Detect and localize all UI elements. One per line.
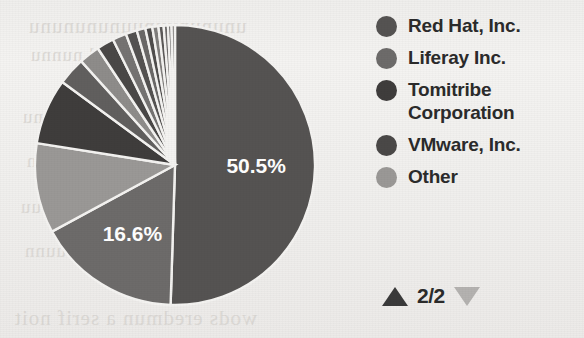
triangle-up-icon[interactable] bbox=[382, 287, 408, 306]
pie-slice-label: 50.5% bbox=[226, 154, 286, 177]
legend-item-tomitribe[interactable]: Tomitribe Corporation bbox=[376, 78, 582, 124]
legend-swatch-icon bbox=[376, 167, 397, 188]
legend-pager: 2/2 bbox=[382, 284, 480, 308]
pie-slice-label: 16.6% bbox=[103, 222, 163, 245]
legend-item-label: Other bbox=[408, 165, 458, 188]
legend-item-vmware[interactable]: VMware, Inc. bbox=[376, 133, 582, 156]
legend-item-label: Red Hat, Inc. bbox=[408, 14, 520, 37]
legend-item-liferay[interactable]: Liferay Inc. bbox=[376, 46, 582, 69]
pager-page-count: 2/2 bbox=[417, 284, 445, 308]
legend-item-label: Liferay Inc. bbox=[408, 46, 506, 69]
chart-legend: Red Hat, Inc. Liferay Inc. Tomitribe Cor… bbox=[376, 14, 582, 197]
legend-swatch-icon bbox=[376, 16, 397, 37]
legend-swatch-icon bbox=[376, 80, 397, 101]
pie-chart-svg[interactable]: 50.5%16.6% bbox=[0, 0, 360, 338]
legend-item-other[interactable]: Other bbox=[376, 165, 582, 188]
legend-item-label: VMware, Inc. bbox=[408, 133, 521, 156]
pie-chart: 50.5%16.6% bbox=[0, 0, 360, 338]
triangle-down-icon[interactable] bbox=[454, 287, 480, 306]
legend-item-red-hat[interactable]: Red Hat, Inc. bbox=[376, 14, 582, 37]
legend-swatch-icon bbox=[376, 48, 397, 69]
legend-swatch-icon bbox=[376, 135, 397, 156]
legend-item-label: Tomitribe Corporation bbox=[408, 78, 582, 124]
